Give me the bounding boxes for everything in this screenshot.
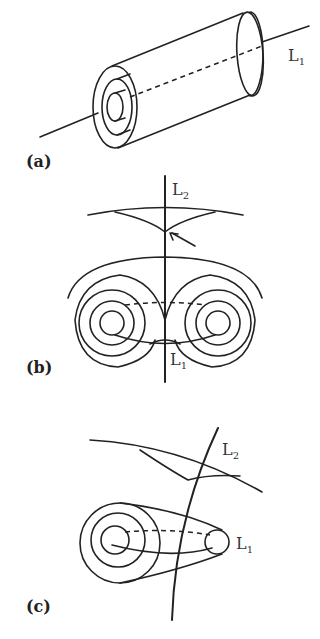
label-l1-c: L1 xyxy=(236,534,253,555)
panel-a-cylinder xyxy=(40,11,309,148)
line-subscript: 1 xyxy=(181,360,187,371)
line-subscript: 2 xyxy=(183,190,189,201)
line-subscript: 1 xyxy=(299,56,305,67)
figure-canvas xyxy=(0,0,320,639)
line-subscript: 1 xyxy=(247,544,253,555)
line-name: L xyxy=(170,350,181,369)
panel-label-c: (c) xyxy=(26,597,51,616)
label-l1-a: L1 xyxy=(288,46,305,67)
label-l2-c: L2 xyxy=(222,440,239,461)
label-l1-b: L1 xyxy=(170,350,187,371)
panel-b-torus xyxy=(68,176,262,382)
line-subscript: 2 xyxy=(233,450,239,461)
line-name: L xyxy=(172,180,183,199)
panel-label-b: (b) xyxy=(26,358,52,377)
line-name: L xyxy=(222,440,233,459)
line-name: L xyxy=(236,534,247,553)
label-l2-b: L2 xyxy=(172,180,189,201)
line-name: L xyxy=(288,46,299,65)
panel-label-a: (a) xyxy=(26,152,52,171)
